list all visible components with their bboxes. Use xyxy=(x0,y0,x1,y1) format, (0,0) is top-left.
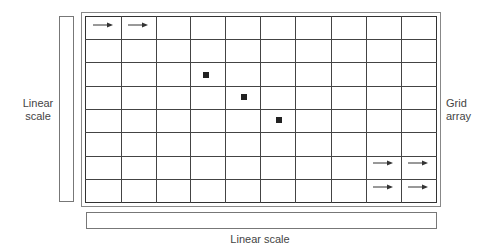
arrow-right-icon xyxy=(373,160,393,166)
grid-row-line xyxy=(85,109,437,110)
arrow-right-icon xyxy=(373,184,393,190)
arrow-right-icon xyxy=(128,22,148,28)
arrow-right-icon xyxy=(408,184,428,190)
left-axis-label: Linear scale xyxy=(18,97,58,123)
bottom-linear-scale-bar xyxy=(86,212,437,229)
grid-row-line xyxy=(85,62,437,63)
square-marker xyxy=(203,72,209,78)
arrow-right-icon xyxy=(408,160,428,166)
grid-array-label: Grid array xyxy=(446,97,476,123)
square-marker xyxy=(241,94,247,100)
grid-row-line xyxy=(85,132,437,133)
grid-row-line xyxy=(85,39,437,40)
arrow-right-icon xyxy=(93,22,113,28)
grid-row-line xyxy=(85,86,437,87)
grid-row-line xyxy=(85,156,437,157)
left-linear-scale-bar xyxy=(59,16,74,202)
grid-row-line xyxy=(85,179,437,180)
bottom-axis-label: Linear scale xyxy=(200,233,320,246)
square-marker xyxy=(276,117,282,123)
